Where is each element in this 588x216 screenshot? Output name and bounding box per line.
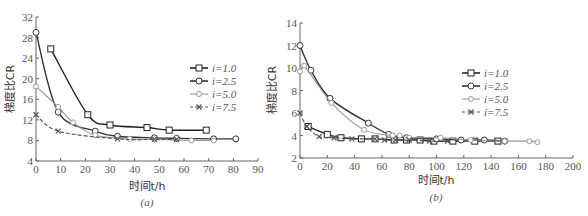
diamond-marker [468, 138, 473, 143]
x-tick-label: 30 [105, 163, 117, 175]
circle-marker [468, 83, 474, 89]
square-marker [144, 125, 150, 131]
y-tick-label: 20 [22, 73, 34, 85]
x-tick-label: 20 [80, 163, 92, 175]
y-tick-label: 2 [292, 152, 298, 164]
circle-marker [33, 29, 39, 35]
diamond-marker [34, 84, 39, 89]
x-tick-label: 60 [376, 160, 388, 172]
y-tick-label: 10 [286, 62, 298, 74]
x-tick-label: 200 [565, 160, 582, 172]
x-tick-label: 40 [129, 163, 141, 175]
x-tick-label: 180 [537, 160, 554, 172]
chart-panel-b: 0204060801001201401601802002468101214时间t… [265, 17, 582, 204]
x-tick-label: 90 [253, 163, 265, 175]
diamond-marker [56, 105, 61, 110]
diamond-marker [469, 97, 474, 102]
chart-panel-a: 010203040506070809048121620242832时间t/h梯度… [3, 11, 264, 209]
legend: i=1.0i=2.5i=5.0i=7.5 [462, 67, 509, 118]
legend-item: i=1.0 [462, 67, 509, 79]
series-line [300, 46, 505, 142]
diamond-marker [438, 135, 443, 140]
diamond-marker [211, 138, 216, 143]
legend-label: i=5.0 [212, 88, 237, 100]
legend-item: i=7.5 [190, 101, 237, 113]
diamond-marker [302, 63, 307, 68]
y-axis-title: 梯度比CR [265, 65, 279, 114]
y-tick-label: 12 [286, 40, 297, 52]
y-tick-label: 24 [22, 52, 34, 64]
panel-label: (a) [141, 196, 154, 209]
square-marker [166, 127, 172, 133]
figure: 010203040506070809048121620242832时间t/h梯度… [0, 0, 588, 216]
series-i-2-5 [297, 43, 508, 145]
y-axis-title: 梯度比CR [3, 64, 17, 113]
x-tick-label: 100 [428, 160, 445, 172]
x-tick-label: 50 [154, 163, 166, 175]
x-tick-label: 20 [322, 160, 334, 172]
legend-item: i=5.0 [190, 88, 237, 100]
square-marker [48, 46, 54, 52]
x-axis-title: 时间t/h [129, 180, 166, 193]
y-tick-label: 12 [22, 114, 33, 126]
y-tick-label: 4 [28, 155, 34, 167]
legend-label: i=2.5 [212, 75, 237, 87]
legend-item: i=1.0 [190, 62, 237, 74]
circle-marker [233, 136, 239, 142]
y-tick-label: 4 [292, 130, 298, 142]
diamond-marker [535, 140, 540, 145]
diamond-marker [329, 100, 334, 105]
diamond-marker [527, 139, 532, 144]
x-tick-label: 0 [33, 163, 39, 175]
x-tick-label: 10 [55, 163, 67, 175]
y-tick-label: 8 [292, 85, 298, 97]
legend-label: i=2.5 [484, 80, 509, 92]
y-tick-label: 6 [292, 107, 298, 119]
x-marker [317, 134, 322, 139]
series-i-2-5 [33, 29, 239, 141]
circle-marker [297, 43, 303, 49]
diamond-marker [197, 92, 202, 97]
square-marker [468, 70, 474, 76]
legend-item: i=2.5 [190, 75, 237, 87]
x-tick-label: 160 [510, 160, 527, 172]
diamond-marker [189, 138, 194, 143]
square-marker [324, 131, 330, 137]
y-tick-label: 32 [22, 11, 33, 23]
legend-item: i=7.5 [462, 106, 509, 118]
y-tick-label: 14 [286, 17, 298, 29]
diamond-marker [390, 133, 395, 138]
legend-item: i=2.5 [462, 80, 509, 92]
x-tick-label: 120 [456, 160, 473, 172]
y-tick-label: 8 [28, 134, 34, 146]
diamond-marker [71, 120, 76, 125]
legend-label: i=5.0 [484, 93, 509, 105]
legend-label: i=1.0 [212, 62, 237, 74]
y-tick-label: 28 [22, 32, 34, 44]
square-marker [107, 122, 113, 128]
x-tick-label: 80 [404, 160, 416, 172]
x-tick-label: 140 [483, 160, 500, 172]
legend: i=1.0i=2.5i=5.0i=7.5 [190, 62, 237, 113]
panel-label: (b) [430, 191, 443, 204]
x-tick-label: 70 [203, 163, 215, 175]
legend-label: i=7.5 [212, 101, 237, 113]
series-line [36, 32, 236, 138]
legend-label: i=1.0 [484, 67, 509, 79]
diamond-marker [127, 136, 132, 141]
circle-marker [196, 78, 202, 84]
x-tick-label: 80 [228, 163, 240, 175]
y-tick-label: 16 [22, 93, 34, 105]
diamond-marker [397, 133, 402, 138]
x-tick-label: 60 [179, 163, 191, 175]
x-axis-title: 时间t/h [418, 174, 455, 187]
circle-marker [365, 120, 371, 126]
x-tick-label: 0 [297, 160, 303, 172]
legend-label: i=7.5 [484, 106, 509, 118]
square-marker [203, 127, 209, 133]
diamond-marker [502, 139, 507, 144]
legend-item: i=5.0 [462, 93, 509, 105]
diamond-marker [362, 127, 367, 132]
series-line [51, 49, 206, 130]
square-marker [85, 112, 91, 118]
